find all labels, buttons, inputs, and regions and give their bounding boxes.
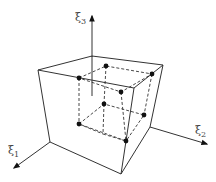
node: [104, 64, 109, 69]
node: [77, 122, 82, 127]
inner-dashed-cube: [79, 66, 152, 141]
axis-subscript: 3: [81, 17, 86, 26]
nodes: [77, 64, 155, 144]
node: [119, 90, 124, 95]
axis-xi1: [14, 142, 50, 168]
axis-label-xi3: ξ3: [75, 12, 86, 26]
node: [102, 102, 107, 107]
element-diagram: [0, 0, 216, 182]
node: [124, 139, 129, 144]
node: [142, 113, 147, 118]
axis-label-xi1: ξ1: [8, 145, 19, 159]
node: [77, 76, 82, 81]
axis-subscript: 2: [201, 130, 206, 139]
node: [150, 72, 155, 77]
axis-subscript: 1: [14, 150, 19, 159]
axis-label-xi2: ξ2: [195, 125, 206, 139]
